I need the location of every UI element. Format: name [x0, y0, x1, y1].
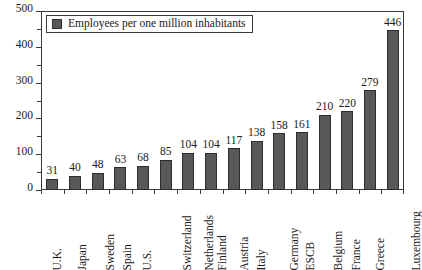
bar-slot[interactable]: 31: [41, 11, 64, 190]
bar-value-label: 31: [47, 165, 59, 177]
x-axis-label-slot: Spain: [109, 196, 132, 270]
bar-value-label: 63: [115, 154, 127, 166]
bar[interactable]: [205, 153, 217, 190]
x-axis-tick-mark: [403, 190, 404, 194]
bar-slot[interactable]: 158: [268, 11, 291, 190]
bar[interactable]: [92, 173, 104, 190]
x-axis-category-label: Luxembourg: [411, 211, 422, 270]
bar-slot[interactable]: 104: [200, 11, 223, 190]
x-axis-tick-mark: [245, 190, 246, 194]
chart-legend: Employees per one million inhabitants: [46, 15, 253, 33]
x-axis-label-slot: Greece: [359, 196, 382, 270]
x-axis-label-slot: Switzerland: [154, 196, 177, 270]
bar-value-label: 85: [160, 146, 172, 158]
bar-slot[interactable]: 104: [177, 11, 200, 190]
bar[interactable]: [182, 153, 194, 190]
x-axis-tick-mark: [64, 190, 65, 194]
x-axis-tick-mark: [86, 190, 87, 194]
x-axis-label-slot: Germany: [268, 196, 291, 270]
x-axis-label-slot: France: [336, 196, 359, 270]
bar[interactable]: [114, 167, 126, 190]
bar-slot[interactable]: 117: [223, 11, 246, 190]
bar-value-label: 68: [137, 152, 149, 164]
bar[interactable]: [364, 90, 376, 190]
x-axis-category-label: U.S.: [142, 250, 154, 270]
bar[interactable]: [319, 115, 331, 190]
bar-value-label: 104: [203, 139, 220, 151]
y-axis-tick-label: 200: [16, 110, 33, 122]
bar-slot[interactable]: 210: [313, 11, 336, 190]
x-axis-tick-mark: [223, 190, 224, 194]
y-axis: 0100200300400500: [0, 0, 41, 200]
bar-value-label: 210: [316, 101, 333, 113]
bar-slot[interactable]: 161: [291, 11, 314, 190]
x-axis-tick-mark: [313, 190, 314, 194]
bar[interactable]: [69, 176, 81, 190]
legend-color-swatch: [52, 19, 62, 29]
x-axis-label-slot: Finland: [200, 196, 223, 270]
y-axis-tick-label: 100: [16, 146, 33, 158]
bar-slot[interactable]: 279: [359, 11, 382, 190]
x-axis-tick-mark: [291, 190, 292, 194]
bar-slot[interactable]: 85: [154, 11, 177, 190]
y-axis-tick-label: 0: [27, 182, 33, 194]
x-axis-label-slot: Luxembourg: [381, 196, 404, 270]
x-axis-label-slot: Sweden: [86, 196, 109, 270]
bar[interactable]: [341, 111, 353, 190]
x-axis-label-slot: Austria: [223, 196, 246, 270]
y-axis-tick-label: 500: [16, 3, 33, 15]
x-axis-tick-mark: [177, 190, 178, 194]
bar-value-label: 158: [271, 120, 288, 132]
bar[interactable]: [273, 133, 285, 190]
x-axis-label-slot: Netherlands: [177, 196, 200, 270]
x-axis-category-label: Italy: [256, 249, 268, 270]
x-axis-tick-mark: [381, 190, 382, 194]
bar-value-label: 161: [293, 119, 310, 131]
bar[interactable]: [228, 148, 240, 190]
bar[interactable]: [46, 179, 58, 190]
bar-value-label: 220: [339, 98, 356, 110]
bar[interactable]: [387, 30, 399, 190]
bar[interactable]: [296, 132, 308, 190]
bar-slot[interactable]: 40: [64, 11, 87, 190]
bar-slot[interactable]: 63: [109, 11, 132, 190]
x-axis-label-slot: U.K.: [41, 196, 64, 270]
x-axis-label-slot: Belgium: [313, 196, 336, 270]
x-axis-ticks: [41, 190, 404, 195]
legend-label: Employees per one million inhabitants: [68, 18, 246, 30]
bar[interactable]: [160, 160, 172, 190]
x-axis-tick-mark: [336, 190, 337, 194]
x-axis-tick-mark: [359, 190, 360, 194]
x-axis-label-slot: Italy: [245, 196, 268, 270]
x-axis-tick-mark: [132, 190, 133, 194]
bar-value-label: 117: [225, 135, 242, 147]
bars-layer: 3140486368851041041171381581612102202794…: [41, 11, 404, 190]
x-axis-label-slot: ESCB: [291, 196, 314, 270]
x-axis-category-labels: U.K.JapanSwedenSpainU.S.SwitzerlandNethe…: [41, 196, 404, 270]
x-axis-tick-mark: [154, 190, 155, 194]
bar-value-label: 138: [248, 127, 265, 139]
bar-value-label: 279: [361, 77, 378, 89]
x-axis-label-slot: Japan: [64, 196, 87, 270]
x-axis-label-slot: U.S.: [132, 196, 155, 270]
y-axis-tick-label: 300: [16, 75, 33, 87]
bar-value-label: 48: [92, 159, 104, 171]
x-axis-tick-mark: [109, 190, 110, 194]
bar-slot[interactable]: 138: [245, 11, 268, 190]
bar-slot[interactable]: 220: [336, 11, 359, 190]
bar-slot[interactable]: 68: [132, 11, 155, 190]
bar-value-label: 446: [384, 17, 401, 29]
x-axis-tick-mark: [200, 190, 201, 194]
bar-slot[interactable]: 446: [381, 11, 404, 190]
bar-value-label: 40: [69, 162, 81, 174]
x-axis-tick-mark: [41, 190, 42, 194]
bar[interactable]: [251, 141, 263, 190]
y-axis-tick-label: 400: [16, 39, 33, 51]
bar[interactable]: [137, 166, 149, 190]
x-axis-tick-mark: [268, 190, 269, 194]
bar-slot[interactable]: 48: [86, 11, 109, 190]
bar-value-label: 104: [180, 139, 197, 151]
x-axis-category-label: U.K.: [52, 248, 64, 270]
